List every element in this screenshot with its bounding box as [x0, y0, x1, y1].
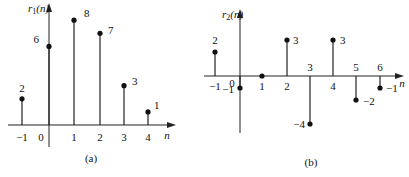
plot-b: r2(n)n(b)−120−11233−4435−26−1 — [204, 8, 405, 169]
stem-marker — [121, 83, 126, 88]
stem-marker — [19, 96, 24, 101]
value-label: 8 — [84, 7, 90, 19]
value-label: −1 — [386, 82, 398, 94]
value-label: 2 — [212, 34, 218, 46]
y-axis-label: r1(n) — [28, 2, 49, 16]
stem-marker — [237, 85, 242, 90]
x-axis-arrow-icon — [167, 122, 176, 128]
stem-marker — [145, 109, 150, 114]
value-label: 3 — [132, 75, 138, 87]
tick-label: 2 — [97, 131, 103, 143]
tick-label: 0 — [38, 131, 44, 143]
stem-marker — [307, 121, 312, 126]
tick-label: 1 — [259, 80, 265, 92]
stem-marker — [353, 97, 358, 102]
stem-marker — [97, 31, 102, 36]
tick-label: 5 — [353, 61, 359, 73]
tick-label: 1 — [71, 131, 77, 143]
stem-marker — [284, 37, 289, 42]
value-label: −2 — [363, 95, 375, 107]
value-label: 7 — [108, 24, 114, 36]
tick-label: 6 — [377, 61, 383, 73]
plot-a: r1(n)n(a)−120618273341 — [8, 2, 176, 165]
stem-plots: r1(n)n(a)−120618273341 r2(n)n(b)−120−112… — [0, 0, 409, 177]
value-label: 1 — [154, 99, 160, 111]
tick-label: 4 — [145, 131, 151, 143]
value-label: 3 — [293, 34, 299, 46]
y-axis-label: r2(n) — [222, 8, 243, 22]
value-label: −1 — [222, 83, 234, 95]
value-label: 3 — [340, 34, 346, 46]
value-label: −4 — [293, 118, 305, 130]
tick-label: 3 — [121, 131, 127, 143]
stem-marker — [46, 44, 51, 49]
x-axis-label: n — [399, 77, 405, 89]
tick-label: −1 — [209, 80, 221, 92]
value-label: 6 — [34, 33, 40, 45]
stem-marker — [330, 37, 335, 42]
figure-caption: (b) — [305, 156, 318, 169]
tick-label: 3 — [307, 61, 313, 73]
x-axis-label: n — [164, 129, 170, 141]
figure-caption: (a) — [85, 152, 98, 165]
tick-label: 4 — [330, 80, 336, 92]
value-label: 2 — [19, 82, 25, 94]
stem-marker — [259, 73, 264, 78]
tick-label: 2 — [284, 80, 290, 92]
stem-marker — [377, 85, 382, 90]
stem-marker — [71, 18, 76, 23]
tick-label: −1 — [16, 131, 28, 143]
stem-marker — [212, 49, 217, 54]
